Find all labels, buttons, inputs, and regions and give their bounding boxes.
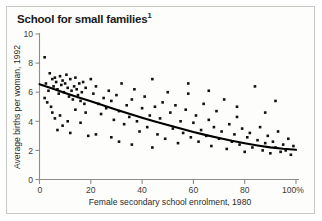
scatter-point <box>174 104 177 107</box>
scatter-point <box>138 130 141 133</box>
scatter-point <box>72 98 75 101</box>
scatter-point <box>113 119 116 122</box>
scatter-point <box>266 135 269 138</box>
scatter-point <box>54 76 57 79</box>
x-tick-label: 60 <box>189 185 199 195</box>
scatter-point <box>287 137 290 140</box>
scatter-point <box>60 84 63 87</box>
scatter-point <box>102 97 105 100</box>
scatter-point <box>259 126 262 129</box>
scatter-point <box>84 111 87 114</box>
scatter-point <box>246 136 249 139</box>
x-tick-label: 80 <box>240 185 250 195</box>
scatter-point <box>249 132 252 135</box>
scatter-point <box>120 82 123 85</box>
scatter-point <box>55 81 58 84</box>
x-tick-label: 20 <box>86 185 96 195</box>
scatter-point <box>233 133 236 136</box>
scatter-point <box>74 108 77 111</box>
scatter-point <box>184 108 187 111</box>
scatter-point <box>92 92 95 95</box>
scatter-point <box>141 107 144 110</box>
scatter-point <box>241 127 244 130</box>
x-axis-tick-labels: 020406080100% <box>38 185 305 195</box>
scatter-point <box>274 100 277 103</box>
y-tick-label: 8 <box>28 58 33 68</box>
scatter-point <box>110 100 113 103</box>
scatter-point <box>207 119 210 122</box>
scatter-point <box>136 120 139 123</box>
scatter-point <box>156 133 159 136</box>
scatter-point <box>154 105 157 108</box>
scatter-point <box>238 143 241 146</box>
scatter-point <box>215 110 218 113</box>
scatter-point <box>256 139 259 142</box>
scatter-point <box>200 129 203 132</box>
scatter-point <box>149 114 152 117</box>
scatter-chart: 0246810 Average births per woman, 1992 0… <box>7 7 316 215</box>
scatter-point <box>254 85 257 88</box>
y-tick-label: 2 <box>28 146 33 156</box>
scatter-point <box>179 120 182 123</box>
scatter-point <box>223 98 226 101</box>
scatter-point <box>57 92 60 95</box>
scatter-point <box>107 89 110 92</box>
scatter-point <box>236 116 239 119</box>
y-tick-label: 10 <box>23 29 33 39</box>
scatter-point <box>177 142 180 145</box>
scatter-point <box>225 148 228 151</box>
scatter-point <box>82 81 85 84</box>
scatter-point <box>272 140 275 143</box>
scatter-point <box>54 117 57 120</box>
scatter-point <box>264 111 267 114</box>
scatter-point <box>261 149 264 152</box>
scatter-point <box>61 124 64 127</box>
scatter-point <box>51 111 54 114</box>
scatter-point <box>131 143 134 146</box>
scatter-point <box>161 101 164 104</box>
scatter-point <box>43 56 46 59</box>
scatter-point <box>202 103 205 106</box>
scatter-point <box>69 78 72 81</box>
scatter-point <box>48 72 51 75</box>
scatter-point <box>45 82 48 85</box>
scatter-point <box>187 82 190 85</box>
scatter-point <box>69 132 72 135</box>
x-tick-label: 0 <box>38 185 43 195</box>
scatter-point <box>43 97 46 100</box>
scatter-point <box>146 126 149 129</box>
scatter-point <box>128 116 131 119</box>
scatter-point <box>79 121 82 124</box>
scatter-point <box>182 132 185 135</box>
scatter-point <box>75 88 78 91</box>
x-axis-ticks <box>40 180 297 185</box>
scatter-points <box>43 56 294 156</box>
scatter-point <box>151 78 154 81</box>
scatter-point <box>81 91 84 94</box>
scatter-point <box>192 121 195 124</box>
scatter-point <box>251 146 254 149</box>
scatter-point <box>79 100 82 103</box>
x-tick-label: 40 <box>137 185 147 195</box>
scatter-point <box>164 137 167 140</box>
scatter-point <box>65 73 68 76</box>
scatter-point <box>118 140 121 143</box>
scatter-point <box>159 117 162 120</box>
scatter-point <box>143 95 146 98</box>
scatter-point <box>59 75 62 78</box>
scatter-point <box>46 101 49 104</box>
scatter-point <box>78 82 81 85</box>
scatter-point <box>83 103 86 106</box>
scatter-point <box>282 143 285 146</box>
scatter-point <box>51 78 54 81</box>
scatter-point <box>290 153 293 156</box>
scatter-point <box>277 130 280 133</box>
plot-area: 0246810 Average births per woman, 1992 0… <box>7 7 316 215</box>
y-axis-title: Average births per woman, 1992 <box>12 45 22 169</box>
scatter-point <box>95 133 98 136</box>
y-axis: 0246810 Average births per woman, 1992 <box>12 29 40 185</box>
scatter-point <box>228 123 231 126</box>
scatter-point <box>47 89 50 92</box>
scatter-point <box>66 87 69 90</box>
scatter-point <box>64 82 67 85</box>
